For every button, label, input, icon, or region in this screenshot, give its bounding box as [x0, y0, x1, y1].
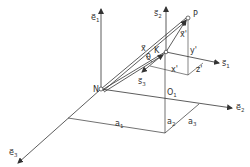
s3-label: s⃗3: [138, 77, 146, 87]
K-label: K: [154, 46, 160, 55]
zprime-label: z': [196, 65, 202, 74]
k-vector-inner: [104, 55, 163, 92]
e2-label: e⃗2: [236, 103, 244, 113]
e3-label: e⃗3: [9, 148, 18, 158]
e1-label: e⃗1: [91, 13, 99, 23]
a1-label: a1: [115, 119, 123, 129]
point-O1: [164, 50, 168, 54]
point-P: [186, 16, 190, 20]
yprime-label: y': [190, 46, 197, 55]
e3-axis: [18, 89, 101, 163]
xprime-line: [150, 66, 188, 75]
point-N: [99, 87, 103, 91]
a2-label: a2: [167, 117, 175, 127]
k-vector: [102, 52, 165, 90]
P-label: P: [193, 10, 198, 19]
s2-label: s⃗2: [154, 9, 162, 19]
xprime-label: x': [171, 65, 178, 74]
x-vector-label: x⃗: [141, 44, 146, 53]
coordinate-diagram: e⃗1 e⃗2 e⃗3 s⃗2 s⃗1 s⃗3 N P O1 a1 a2 a3 …: [0, 0, 250, 167]
theta-label: θ: [146, 53, 151, 62]
s1-label: s⃗1: [222, 59, 230, 69]
O1-label: O1: [167, 88, 177, 98]
xprime-vector-label: x⃗': [180, 30, 187, 39]
N-label: N: [93, 85, 99, 94]
a3-label: a3: [188, 117, 197, 127]
